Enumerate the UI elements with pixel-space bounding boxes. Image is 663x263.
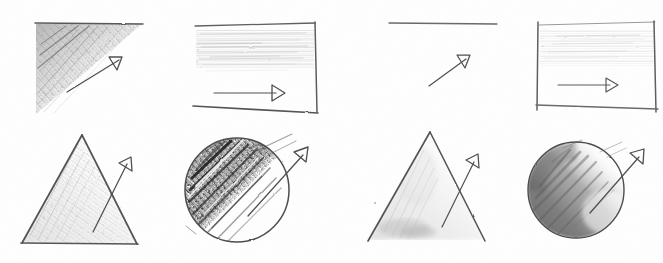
triangle-2-stray-dot xyxy=(374,202,376,204)
sketch-canvas xyxy=(0,0,663,263)
square-4-edge-left xyxy=(537,22,538,110)
square-4-shading xyxy=(540,30,654,66)
square-2-shading xyxy=(196,30,314,71)
triangle-1-edge-bottom xyxy=(21,243,138,244)
square-1-edge-top xyxy=(35,23,143,24)
